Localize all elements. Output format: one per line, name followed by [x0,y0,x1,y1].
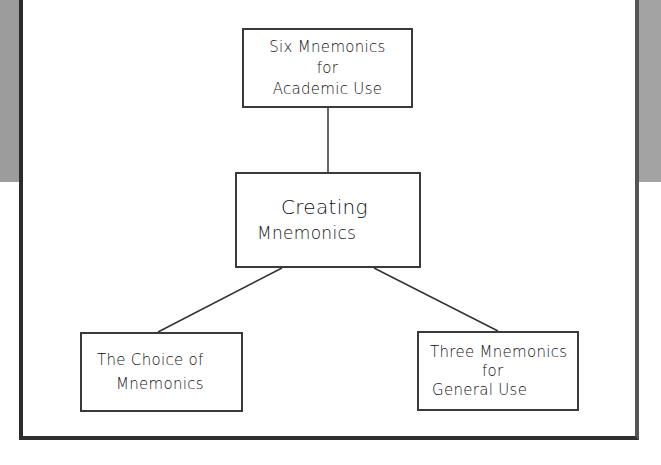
background-band-left [0,0,19,182]
node-choice-of-mnemonics: The Choice of Mnemonics [80,332,243,412]
node-six-mnemonics-academic-use: Six Mnemonics for Academic Use [242,28,413,108]
node-label-line: Mnemonics [257,220,356,246]
node-label-line: Three Mnemonics [430,343,567,362]
node-label-line: Six Mnemonics [269,37,385,58]
node-label-line: Academic Use [273,79,383,100]
background-band-right [638,0,661,182]
node-label-line: for [317,58,339,79]
node-label-line: The Choice of [97,348,204,372]
node-label-line: Creating [281,194,368,220]
node-three-mnemonics-general-use: Three Mnemonics for General Use [417,331,579,411]
node-label-line: for [482,362,504,381]
node-label-line: Mnemonics [116,372,204,396]
node-creating-mnemonics: Creating Mnemonics [235,172,421,268]
node-label-line: General Use [432,381,527,400]
